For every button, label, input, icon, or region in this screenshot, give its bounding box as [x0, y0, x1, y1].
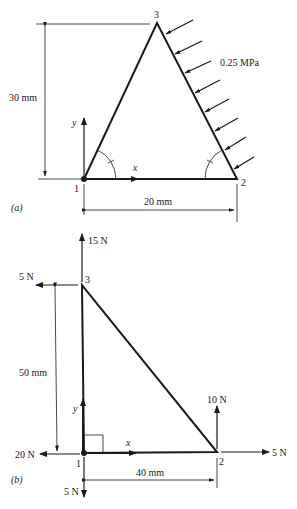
node-2-label: 2 [241, 177, 246, 188]
figure-b: 3 1 2 x y 15 N 5 N 10 N 5 N 20 N 5 N 50 … [11, 234, 287, 497]
base-dimension-label-b: 40 mm [136, 467, 164, 478]
figure-a-label: (a) [11, 202, 23, 214]
label-10n: 10 N [207, 394, 227, 405]
node-1-label-b: 1 [76, 458, 81, 469]
dim-line-50mm [55, 288, 57, 451]
x-axis-label-b: x [125, 437, 131, 448]
label-15n: 15 N [88, 235, 108, 246]
label-5n-node3: 5 N [19, 271, 34, 282]
triangle-element-b [82, 285, 217, 453]
y-axis-label: y [71, 117, 77, 128]
height-dimension-label-b: 50 mm [19, 367, 47, 378]
node-3-label-b: 3 [85, 274, 90, 285]
right-angle-marker [85, 435, 103, 452]
height-dimension-label: 30 mm [9, 92, 37, 103]
node-2-label-b: 2 [219, 456, 224, 467]
node-1-label: 1 [74, 183, 79, 194]
figure-a: 3 1 2 x y 30 mm 20 mm 0.25 MPa (a) [9, 9, 259, 222]
node-3-label: 3 [154, 9, 159, 20]
pressure-label: 0.25 MPa [220, 57, 259, 68]
figure-b-label: (b) [11, 474, 23, 486]
y-axis-label-b: y [72, 403, 78, 414]
pressure-arrows [166, 20, 254, 169]
angle-arc-node2 [205, 150, 222, 179]
angle-arc-node1 [97, 150, 116, 179]
label-5n-down: 5 N [64, 486, 79, 497]
label-5n-right: 5 N [272, 447, 287, 458]
x-axis-label: x [132, 162, 138, 173]
base-dimension-label: 20 mm [144, 196, 172, 207]
label-20n: 20 N [15, 449, 35, 460]
